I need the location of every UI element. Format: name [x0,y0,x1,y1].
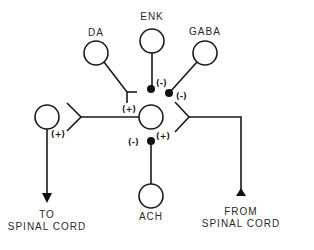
da-sign: (+) [122,105,136,114]
da-neuron: DA (+) [84,27,137,114]
input-fiber [189,117,241,190]
ach-cell-body [139,184,163,208]
to-label-line1: TO [39,209,55,220]
ach-label: ACH [139,211,163,222]
ach-sign-right: (+) [156,132,170,141]
output-cell-body [35,105,59,129]
center-cell-body [139,105,163,129]
input-synapse-fork [175,102,189,132]
center-neuron [139,105,163,129]
output-arrow-down-icon [42,193,52,203]
spinal-input-pathway: FROM SPINAL CORD [175,102,280,229]
gaba-axon [170,62,197,92]
ach-neuron: ACH (-) (+) [128,132,170,222]
input-arrow-triangle-icon [236,188,246,196]
output-synapse-fork [67,103,81,131]
gaba-label: GABA [189,26,221,37]
da-axon [104,62,127,103]
ach-sign-left: (-) [128,138,139,147]
from-label-line2: SPINAL CORD [202,218,280,229]
enk-cell-body [140,29,164,53]
enk-label: ENK [140,11,164,22]
neural-circuit-diagram: DA (+) ENK (-) GABA (-) FROM SPINAL CORD [0,0,314,250]
to-label-line2: SPINAL CORD [8,221,86,232]
output-pathway: (+) TO SPINAL CORD [8,103,139,232]
gaba-cell-body [193,41,217,65]
gaba-sign: (-) [176,92,187,101]
enk-inhibitory-terminal [147,85,155,93]
enk-sign: (-) [156,79,167,88]
gaba-neuron: GABA (-) [165,26,221,101]
gaba-inhibitory-terminal [165,89,173,97]
da-cell-body [84,41,108,65]
enk-neuron: ENK (-) [140,11,167,93]
output-sign: (+) [51,130,65,139]
da-label: DA [88,27,104,38]
from-label-line1: FROM [224,206,257,217]
